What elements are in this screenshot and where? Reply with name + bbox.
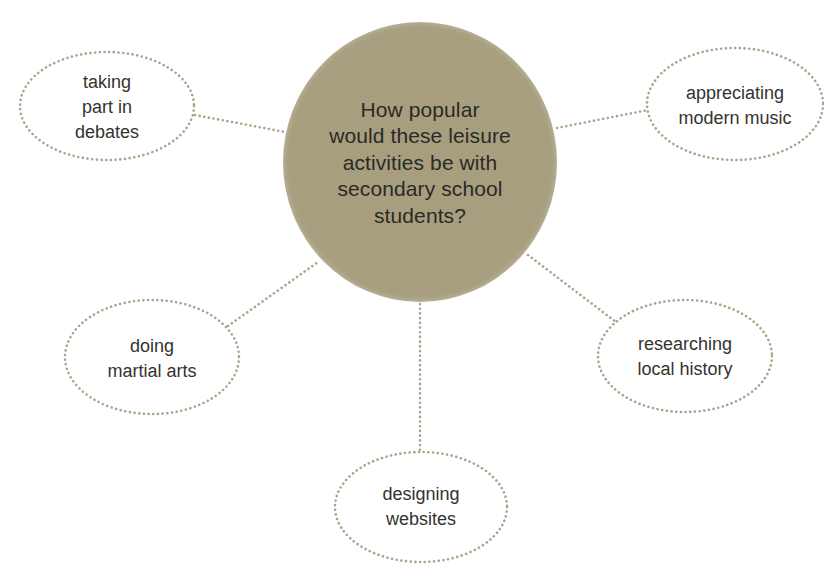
node-label-line: designing [382,482,459,507]
central-question-line: secondary school [320,176,520,203]
central-question-text: How popular would these leisure activiti… [320,97,520,230]
central-question-circle: How popular would these leisure activiti… [283,22,557,302]
mind-map-diagram: How popular would these leisure activiti… [0,0,834,568]
connector-music [557,110,648,128]
connector-debates [195,115,285,132]
node-label-line: taking [75,70,139,95]
node-label-line: part in [75,95,139,120]
central-question-line: would these leisure [320,123,520,150]
node-label-line: doing [107,334,196,359]
node-appreciating-modern-music: appreciating modern music [647,48,823,160]
node-label-line: martial arts [107,359,196,384]
node-taking-part-in-debates: taking part in debates [20,52,194,160]
central-question-line: activities be with [320,150,520,177]
node-label-line: appreciating [678,81,791,106]
node-label-line: researching [637,332,732,357]
node-designing-websites: designing websites [335,452,507,562]
node-label-line: modern music [678,106,791,131]
connector-martial-arts [228,262,318,326]
node-doing-martial-arts: doing martial arts [65,300,239,414]
node-label-line: local history [637,357,732,382]
connector-history [528,255,616,322]
node-label-line: websites [382,507,459,532]
central-question-line: How popular [320,97,520,124]
central-question-line: students? [320,203,520,230]
node-researching-local-history: researching local history [598,300,772,412]
node-label-line: debates [75,120,139,145]
